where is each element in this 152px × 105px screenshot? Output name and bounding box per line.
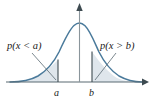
x-axis-tick-label-a: a	[54, 88, 59, 98]
lower-tail-probability-label: p(x < a)	[7, 41, 42, 52]
distribution-plot-svg	[0, 0, 152, 105]
upper-tail-shaded-region	[92, 52, 140, 82]
bell-curve-path	[10, 23, 142, 82]
x-axis-tick-label-b: b	[89, 88, 94, 98]
upper-tail-probability-label: p(x > b)	[100, 41, 135, 52]
normal-distribution-figure: p(x < a) p(x > b) a b	[0, 0, 152, 105]
y-axis-arrowhead	[76, 3, 82, 11]
x-axis-arrowhead	[142, 79, 149, 86]
